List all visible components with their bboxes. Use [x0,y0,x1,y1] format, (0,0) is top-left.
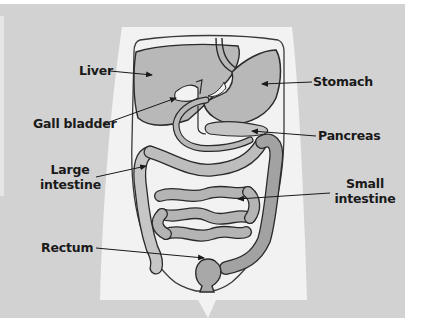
label-liver: Liver [79,63,113,78]
label-stomach: Stomach [313,74,373,89]
label-small-intestine-line1: Small [330,176,400,191]
label-large-intestine-line2: intestine [40,177,100,192]
label-gall-bladder: Gall bladder [33,116,116,131]
label-large-intestine-line1: Large [40,162,100,177]
label-small-intestine: Small intestine [330,176,400,206]
label-pancreas: Pancreas [318,128,381,143]
label-rectum: Rectum [41,240,93,255]
label-large-intestine: Large intestine [40,162,100,192]
label-small-intestine-line2: intestine [330,191,400,206]
